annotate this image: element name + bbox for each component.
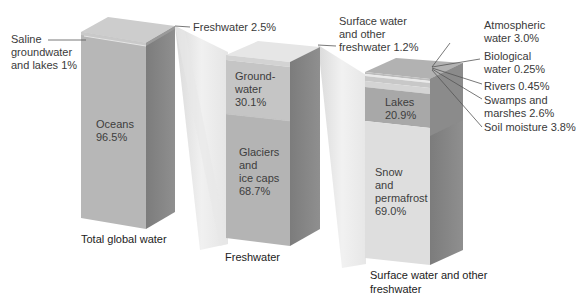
callout-saline: Saline groundwater and lakes 1% — [11, 33, 77, 72]
callout-atmospheric: Atmospheric water 3.0% — [484, 19, 545, 45]
label-groundwater: Ground- water 30.1% — [235, 70, 275, 109]
label-snow: Snow and permafrost 69.0% — [375, 166, 428, 218]
callout-surface: Surface water and other freshwater 1.2% — [339, 15, 418, 54]
label-oceans: Oceans 96.5% — [96, 118, 134, 144]
callout-swamps: Swamps and marshes 2.6% — [484, 94, 554, 120]
funnel-total-to-freshwater — [175, 26, 228, 250]
callout-soil: Soil moisture 3.8% — [484, 121, 576, 134]
caption-surface: Surface water and other freshwater — [370, 268, 487, 296]
caption-total: Total global water — [81, 232, 167, 246]
callout-freshwater: Freshwater 2.5% — [193, 21, 276, 34]
label-glaciers: Glaciers and ice caps 68.7% — [239, 146, 279, 198]
callout-biological: Biological water 0.25% — [484, 50, 545, 76]
funnel-freshwater-to-surface — [318, 45, 366, 268]
callout-rivers: Rivers 0.45% — [484, 80, 549, 93]
label-lakes: Lakes 20.9% — [385, 96, 416, 122]
caption-freshwater: Freshwater — [225, 250, 280, 264]
